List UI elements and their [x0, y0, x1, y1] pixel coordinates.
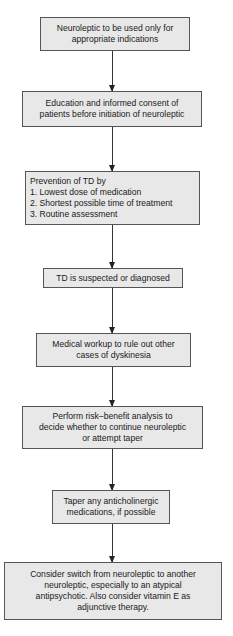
- step-education-consent: Education and informed consent of patien…: [22, 91, 202, 127]
- step-taper-anticholinergic: Taper any anticholinergic medications, i…: [52, 490, 170, 524]
- step-text: TD is suspected or diagnosed: [56, 273, 170, 284]
- step-text: Consider switch from neuroleptic to anot…: [30, 569, 196, 613]
- step-text: Neuroleptic to be used only for appropri…: [57, 23, 174, 45]
- step-consider-switch: Consider switch from neuroleptic to anot…: [4, 562, 222, 620]
- step-medical-workup: Medical workup to rule out other cases o…: [36, 333, 191, 367]
- step-td-suspected: TD is suspected or diagnosed: [43, 268, 183, 288]
- arrow-down-icon: [112, 449, 113, 490]
- step-text: Taper any anticholinergic medications, i…: [63, 496, 158, 518]
- arrow-down-icon: [112, 225, 113, 268]
- step-text: Prevention of TD by 1. Lowest dose of me…: [30, 176, 172, 220]
- step-text: Education and informed consent of patien…: [40, 98, 185, 120]
- step-text: Perform risk–benefit analysis to decide …: [39, 411, 186, 444]
- step-appropriate-indications: Neuroleptic to be used only for appropri…: [40, 17, 190, 51]
- step-prevention: Prevention of TD by 1. Lowest dose of me…: [25, 171, 200, 225]
- arrow-down-icon: [112, 51, 113, 91]
- arrow-down-icon: [112, 524, 113, 562]
- step-text: Medical workup to rule out other cases o…: [52, 339, 174, 361]
- arrow-down-icon: [112, 288, 113, 333]
- arrow-down-icon: [112, 127, 113, 171]
- step-risk-benefit: Perform risk–benefit analysis to decide …: [22, 406, 203, 449]
- arrow-down-icon: [112, 367, 113, 406]
